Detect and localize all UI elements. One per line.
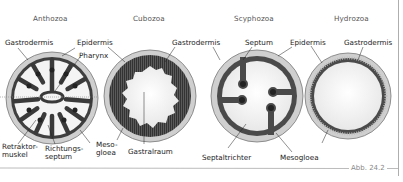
- panel-title-hydrozoa: Hydrozoa: [334, 14, 369, 23]
- panel-title-scyphozoa: Scyphozoa: [234, 14, 274, 23]
- figure-caption: Abb. 24.2: [349, 164, 387, 172]
- label-gastrodermis-cubozoa: Gastrodermis: [172, 39, 220, 47]
- cnidaria-cross-section-figure: Anthozoa Cubozoa Scyphozoa Hydrozoa Gast…: [0, 0, 403, 182]
- label-mesogloea-anthozoa-2: gloea: [96, 149, 116, 157]
- label-gastrodermis-anthozoa: Gastrodermis: [5, 39, 53, 47]
- cubozoa-diagram: [104, 47, 196, 144]
- frame-bottom-line: [0, 168, 350, 169]
- label-retraktormuskel-2: muskel: [2, 151, 28, 159]
- panel-title-anthozoa: Anthozoa: [33, 14, 68, 23]
- hydrozoa-diagram: [305, 46, 391, 143]
- label-mesogloea-scyphozoa: Mesogloea: [280, 154, 319, 162]
- label-epidermis-anthozoa: Epidermis: [77, 39, 113, 47]
- label-septaltrichter: Septaltrichter: [202, 154, 251, 162]
- label-epidermis-scyphozoa: Epidermis: [290, 39, 326, 47]
- label-richtungsseptum-2: septum: [45, 153, 72, 161]
- label-pharynx: Pharynx: [79, 52, 108, 60]
- label-gastrodermis-hydrozoa: Gastrodermis: [344, 39, 392, 47]
- anthozoa-diagram: [0, 48, 98, 144]
- label-gastralraum: Gastralraum: [128, 148, 173, 156]
- scyphozoa-diagram: [211, 47, 303, 152]
- panel-title-cubozoa: Cubozoa: [133, 14, 165, 23]
- label-septum: Septum: [245, 39, 273, 47]
